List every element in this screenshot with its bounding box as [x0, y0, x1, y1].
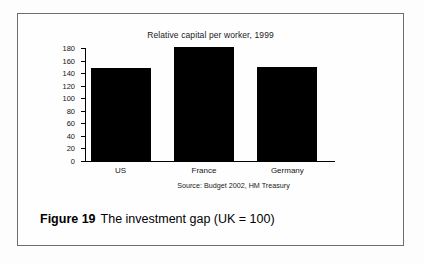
x-axis-category-label: France [192, 166, 217, 175]
x-axis-category-label: Germany [271, 166, 304, 175]
y-axis-tick: 80 [81, 111, 85, 112]
figure-caption-text: The investment gap (UK = 100) [101, 212, 275, 226]
y-axis-tick-label: 60 [67, 119, 75, 128]
x-axis-category-label: US [115, 166, 126, 175]
y-axis-tick: 160 [81, 61, 85, 62]
y-axis-tick-label: 140 [62, 69, 75, 78]
y-axis-tick-label: 160 [62, 56, 75, 65]
chart-title: Relative capital per worker, 1999 [18, 30, 403, 40]
y-axis-tick-label: 0 [71, 157, 75, 166]
figure-number: Figure 19 [40, 212, 96, 226]
bar [174, 47, 234, 161]
y-axis-tick-label: 80 [67, 106, 75, 115]
source-note: Source: Budget 2002, HM Treasury [18, 181, 403, 190]
y-axis-tick-label: 40 [67, 131, 75, 140]
bar [257, 67, 317, 161]
y-axis-tick-label: 120 [62, 81, 75, 90]
y-axis-tick: 140 [81, 73, 85, 74]
y-axis-tick-label: 180 [62, 44, 75, 53]
y-axis-tick-label: 20 [67, 144, 75, 153]
y-axis-tick: 20 [81, 148, 85, 149]
y-axis-tick: 180 [81, 48, 85, 49]
y-axis-line [85, 48, 86, 162]
x-axis-line [85, 161, 335, 162]
y-axis-tick: 120 [81, 86, 85, 87]
bar [91, 68, 151, 161]
figure-caption: Figure 19The investment gap (UK = 100) [40, 212, 275, 226]
y-axis-tick: 0 [81, 161, 85, 162]
y-axis-tick-label: 100 [62, 94, 75, 103]
figure-frame: Relative capital per worker, 1999 020406… [17, 13, 404, 246]
y-axis-tick: 60 [81, 123, 85, 124]
y-axis-tick: 100 [81, 98, 85, 99]
plot-area: 020406080100120140160180 USFranceGermany [85, 48, 335, 162]
y-axis-tick: 40 [81, 136, 85, 137]
